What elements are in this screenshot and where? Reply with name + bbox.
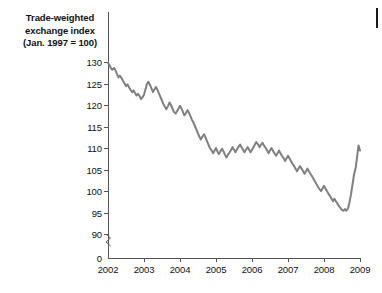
- chart-title-line-1: Trade-weighted: [8, 12, 112, 25]
- y-tick-label-110: 110: [87, 143, 102, 154]
- x-tick-2005: [216, 258, 217, 262]
- x-tick-label-2006: 2006: [242, 264, 263, 275]
- x-tick-2007: [288, 258, 289, 262]
- chart-title: Trade-weighted exchange index (Jan. 1997…: [8, 12, 112, 50]
- x-tick-label-2002: 2002: [98, 264, 119, 275]
- x-tick-label-2005: 2005: [206, 264, 227, 275]
- chart-screenshot: Trade-weighted exchange index (Jan. 1997…: [0, 0, 382, 293]
- x-tick-2009: [360, 258, 361, 262]
- y-tick-label-zero: 0: [97, 253, 102, 264]
- x-tick-2003: [144, 258, 145, 262]
- plot-area: 13012512011511010510095900 2002200320042…: [108, 12, 360, 258]
- y-tick-label-100: 100: [86, 186, 102, 197]
- x-tick-label-2003: 2003: [134, 264, 155, 275]
- y-tick-label-130: 130: [86, 57, 102, 68]
- x-tick-label-2008: 2008: [314, 264, 335, 275]
- y-tick-label-125: 125: [86, 78, 102, 89]
- y-tick-label-115: 115: [87, 121, 102, 132]
- y-tick-label-95: 95: [92, 207, 102, 218]
- page-edge-artifact: [376, 8, 378, 28]
- chart-title-line-3: (Jan. 1997 = 100): [8, 37, 112, 50]
- x-tick-label-2004: 2004: [170, 264, 191, 275]
- x-tick-label-2009: 2009: [350, 264, 371, 275]
- x-tick-2006: [252, 258, 253, 262]
- chart-title-line-2: exchange index: [8, 25, 112, 38]
- x-tick-label-2007: 2007: [278, 264, 299, 275]
- x-axis-line: [108, 258, 360, 259]
- y-tick-label-105: 105: [86, 164, 102, 175]
- x-tick-2004: [180, 258, 181, 262]
- y-tick-label-120: 120: [86, 100, 102, 111]
- series-line-trade-weighted-exchange-index: [108, 12, 360, 258]
- x-tick-2008: [324, 258, 325, 262]
- y-tick-label-90: 90: [92, 229, 102, 240]
